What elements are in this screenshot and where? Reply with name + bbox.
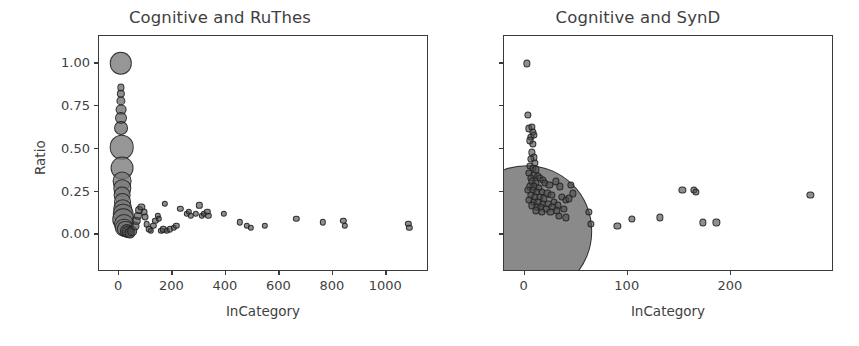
- x-tick-label: 800: [319, 278, 344, 293]
- plot-title: Cognitive and RuThes: [0, 8, 440, 27]
- data-point: [807, 191, 814, 198]
- x-tick-mark: [278, 271, 279, 275]
- x-tick-label: 0: [114, 278, 122, 293]
- y-tick-label: 0.50: [54, 140, 90, 155]
- plot-panel-cognitive-synd: Cognitive and SynD 0100200 InCategory: [430, 0, 859, 346]
- data-point: [523, 60, 530, 67]
- plot-panel-cognitive-ruthes: Cognitive and RuThes 020040060080010000.…: [0, 0, 440, 346]
- data-point: [524, 111, 531, 118]
- data-point: [148, 228, 154, 234]
- data-point: [319, 219, 325, 225]
- y-tick-mark: [499, 62, 503, 63]
- plot-title: Cognitive and SynD: [473, 8, 803, 27]
- y-tick-mark: [94, 191, 98, 192]
- x-tick-mark: [171, 271, 172, 275]
- x-tick-label: 600: [266, 278, 291, 293]
- x-tick-label: 1000: [369, 278, 402, 293]
- x-tick-label: 400: [213, 278, 238, 293]
- data-point: [262, 223, 268, 229]
- data-point: [162, 200, 168, 206]
- x-tick-mark: [332, 271, 333, 275]
- x-tick-mark: [385, 271, 386, 275]
- data-point: [529, 140, 536, 147]
- axes-area: [503, 35, 833, 271]
- data-point: [109, 52, 131, 74]
- data-point: [114, 121, 128, 135]
- data-point: [177, 206, 183, 212]
- data-point: [196, 202, 202, 208]
- data-point: [699, 219, 706, 226]
- y-tick-label: 0.25: [54, 183, 90, 198]
- y-tick-mark: [94, 233, 98, 234]
- y-tick-mark: [94, 105, 98, 106]
- axes-area: [98, 35, 428, 271]
- y-axis-label: Ratio: [32, 140, 48, 175]
- x-tick-label: 200: [717, 278, 742, 293]
- data-point: [221, 211, 227, 217]
- data-point: [342, 223, 348, 229]
- y-tick-mark: [499, 191, 503, 192]
- x-tick-mark: [118, 271, 119, 275]
- y-tick-mark: [499, 233, 503, 234]
- y-tick-label: 0.75: [54, 98, 90, 113]
- x-tick-mark: [524, 271, 525, 275]
- x-axis-label: InCategory: [503, 303, 833, 319]
- data-point: [585, 209, 592, 216]
- x-tick-label: 0: [519, 278, 527, 293]
- data-point: [628, 215, 635, 222]
- x-tick-mark: [730, 271, 731, 275]
- x-tick-mark: [225, 271, 226, 275]
- data-point: [293, 216, 299, 222]
- y-tick-label: 0.00: [54, 226, 90, 241]
- data-point: [142, 214, 149, 221]
- data-point: [656, 214, 663, 221]
- data-point: [713, 219, 720, 226]
- figure-canvas: Cognitive and RuThes 020040060080010000.…: [0, 0, 859, 346]
- y-tick-mark: [94, 62, 98, 63]
- x-axis-label: InCategory: [98, 303, 428, 319]
- data-point: [406, 224, 412, 230]
- data-point: [587, 220, 594, 227]
- data-point: [205, 212, 211, 218]
- x-tick-mark: [627, 271, 628, 275]
- y-tick-mark: [94, 148, 98, 149]
- y-tick-mark: [499, 105, 503, 106]
- data-point: [150, 223, 156, 229]
- data-point: [173, 223, 179, 229]
- data-point: [237, 219, 243, 225]
- data-point: [614, 222, 621, 229]
- data-point: [679, 186, 686, 193]
- y-tick-mark: [499, 148, 503, 149]
- data-point: [692, 188, 699, 195]
- data-point: [247, 224, 253, 230]
- y-tick-label: 1.00: [54, 55, 90, 70]
- x-tick-label: 100: [614, 278, 639, 293]
- data-point: [156, 216, 162, 222]
- x-tick-label: 200: [159, 278, 184, 293]
